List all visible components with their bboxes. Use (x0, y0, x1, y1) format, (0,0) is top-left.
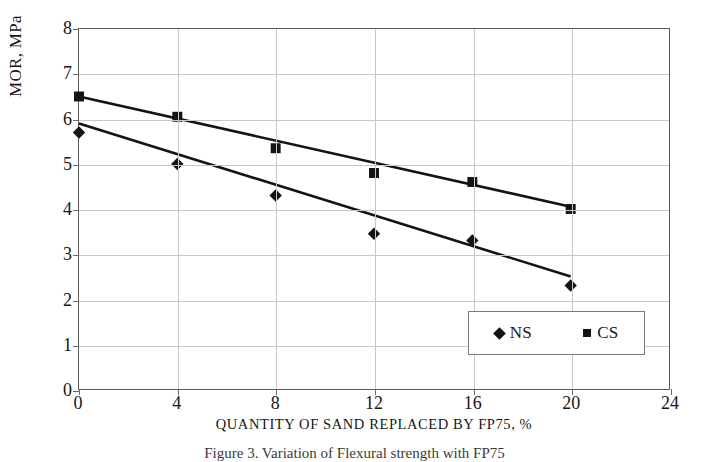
legend: NS CS (468, 311, 645, 355)
square-marker-icon (583, 329, 591, 337)
x-axis-tick-label: 24 (650, 392, 690, 414)
gridline-horizontal (79, 210, 669, 211)
data-point-diamond (73, 126, 85, 138)
data-point-square (566, 204, 576, 214)
legend-entry-cs: CS (583, 323, 618, 343)
y-axis-tickmark (73, 346, 79, 347)
x-axis-tick-label: 8 (255, 392, 295, 414)
gridline-vertical (375, 29, 376, 389)
y-axis-tickmark (73, 74, 79, 75)
figure-caption: Figure 3. Variation of Flexural strength… (0, 445, 709, 462)
diamond-marker-icon (493, 327, 506, 340)
data-point-square (467, 177, 477, 187)
x-axis-title: QUANTITY OF SAND REPLACED BY FP75, % (78, 416, 670, 433)
data-point-diamond (564, 279, 576, 291)
y-axis-tickmark (73, 210, 79, 211)
y-axis-tick-label: 8 (44, 19, 72, 37)
gridline-horizontal (79, 165, 669, 166)
y-axis-tickmark (73, 120, 79, 121)
y-axis-tick-label: 5 (44, 155, 72, 173)
legend-label-ns: NS (510, 323, 532, 343)
y-axis-tick-label: 3 (44, 245, 72, 263)
x-axis-tick-label-group: 04812162024 (0, 392, 709, 418)
y-axis-tickmark (73, 165, 79, 166)
x-axis-tick-label: 4 (157, 392, 197, 414)
x-axis-tick-label: 12 (354, 392, 394, 414)
x-axis-tick-label: 16 (453, 392, 493, 414)
gridline-horizontal (79, 74, 669, 75)
y-axis-tick-label-group: 012345678 (42, 0, 72, 460)
gridline-vertical (178, 29, 179, 389)
data-point-square (369, 168, 379, 178)
data-point-diamond (368, 228, 380, 240)
gridline-horizontal (79, 120, 669, 121)
x-axis-tick-label: 0 (58, 392, 98, 414)
y-axis-title: MOR, MPa (6, 0, 32, 146)
y-axis-tick-label: 4 (44, 200, 72, 218)
y-axis-tickmark (73, 255, 79, 256)
gridline-horizontal (79, 255, 669, 256)
gridline-horizontal (79, 301, 669, 302)
trendline-cs (79, 97, 571, 207)
legend-entry-ns: NS (495, 323, 532, 343)
gridline-vertical (276, 29, 277, 389)
trendline-ns (79, 124, 571, 277)
y-axis-tickmark (73, 29, 79, 30)
x-axis-tick-label: 20 (551, 392, 591, 414)
data-point-square (74, 92, 84, 102)
y-axis-tickmark (73, 301, 79, 302)
y-axis-tick-label: 6 (44, 110, 72, 128)
legend-label-cs: CS (597, 323, 618, 343)
y-axis-tick-label: 2 (44, 291, 72, 309)
y-axis-tick-label: 7 (44, 64, 72, 82)
y-axis-tick-label: 1 (44, 336, 72, 354)
